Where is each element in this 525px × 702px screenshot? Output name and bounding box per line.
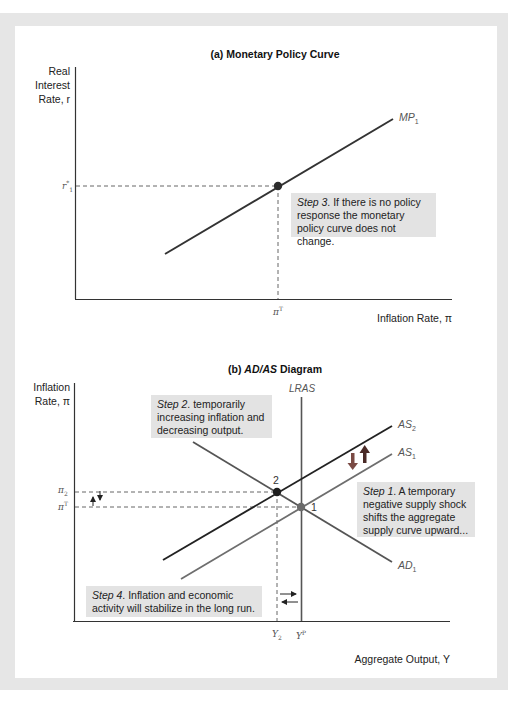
r-star-tick: r*1 <box>62 179 73 193</box>
ad1-label: AD1 <box>398 559 417 573</box>
shift-arrows-icon <box>348 445 371 470</box>
inflation-change-arrows-icon <box>93 491 100 506</box>
panel-b-x-axis-label: Aggregate Output, Y <box>320 653 450 665</box>
panel-a-title: (a) Monetary Policy Curve <box>150 48 400 60</box>
lras-label: LRAS <box>289 383 315 394</box>
panel-a-y-axis-label: Real Interest Rate, r <box>10 64 70 106</box>
yp-tick: YP <box>296 629 306 641</box>
as2-label: AS2 <box>398 418 416 432</box>
step-3-note: Step 3. If there is no policy response t… <box>291 193 436 237</box>
panel-b-title: (b) AD/AS Diagram <box>150 363 400 375</box>
panel-a-guides <box>76 186 278 299</box>
diagram-graphics <box>0 0 525 702</box>
point-2-label: 2 <box>273 474 279 486</box>
point-1-label: 1 <box>311 501 317 513</box>
panel-a-axes <box>75 67 452 300</box>
y2-tick: Y2 <box>272 629 282 641</box>
point-1 <box>297 503 305 511</box>
step-2-note: Step 2. temporarily increasing inflation… <box>151 395 272 438</box>
panel-b-y-axis-label: Inflation Rate, π <box>8 380 70 408</box>
panel-a-x-axis-label: Inflation Rate, π <box>330 312 452 324</box>
step-1-note: Step 1. A temporary negative supply shoc… <box>357 482 475 537</box>
pi-2-tick: π2 <box>58 485 68 497</box>
point-2 <box>273 488 281 496</box>
pi-target-tick-a: πT <box>273 305 283 317</box>
output-change-arrows-icon <box>280 594 298 602</box>
step-4-note: Step 4. Inflation and economic activity … <box>86 586 262 617</box>
mp-curve-label: MP1 <box>399 111 419 125</box>
as1-label: AS1 <box>398 446 416 460</box>
pi-target-tick-b: πT <box>58 500 68 512</box>
mp-equilibrium-point <box>274 182 282 190</box>
